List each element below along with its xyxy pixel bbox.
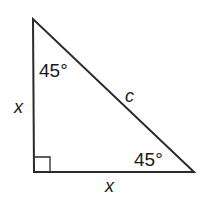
hypotenuse-label: c <box>125 86 134 106</box>
triangle-shape <box>33 19 194 172</box>
triangle-diagram: 45° 45° x x c <box>0 0 201 199</box>
vertical-leg-label: x <box>13 97 24 117</box>
top-angle-label: 45° <box>39 60 68 81</box>
right-angle-marker <box>34 157 50 172</box>
horizontal-leg-label: x <box>104 176 115 196</box>
bottom-right-angle-label: 45° <box>134 149 163 170</box>
